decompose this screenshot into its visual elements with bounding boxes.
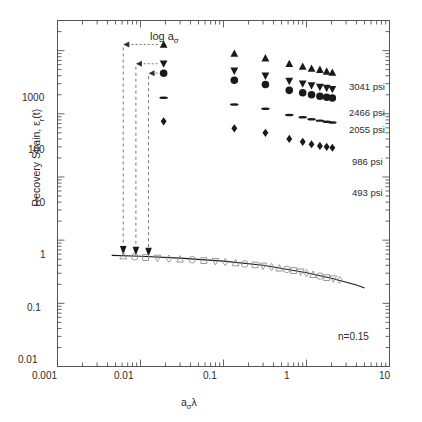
y-tick-label-4: 100 xyxy=(28,144,45,155)
y-tick-label-1: 0.1 xyxy=(27,302,41,313)
y-tick-label-5: 1000 xyxy=(22,92,44,103)
legend-label-2055psi: 2055 psi xyxy=(349,124,385,135)
x-tick-label-2: 0.1 xyxy=(203,370,217,381)
recovery-strain-loglog-chart xyxy=(0,0,422,422)
y-tick-label-2: 1 xyxy=(40,249,46,260)
legend-label-493psi: 493 psi xyxy=(352,187,383,198)
x-tick-label-3: 1 xyxy=(284,370,290,381)
chart-background xyxy=(0,0,422,422)
y-tick-label-0: 0.01 xyxy=(18,354,37,365)
shift-factor-annotation: log aσ xyxy=(150,30,179,45)
x-tick-label-0: 0.001 xyxy=(32,370,57,381)
x-tick-label-1: 0.01 xyxy=(114,370,133,381)
legend-label-986psi: 986 psi xyxy=(352,156,383,167)
exponent-annotation: n=0.15 xyxy=(338,331,369,342)
x-tick-label-4: 10 xyxy=(379,370,390,381)
legend-label-3041psi: 3041 psi xyxy=(349,81,385,92)
legend-label-2466psi: 2466 psi xyxy=(349,107,385,118)
y-tick-label-3: 10 xyxy=(34,197,45,208)
x-axis-label: aσλ xyxy=(181,396,197,411)
